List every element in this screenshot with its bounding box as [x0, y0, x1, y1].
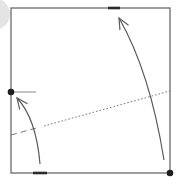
fold-lines [11, 91, 170, 135]
fold-arrows [17, 18, 164, 164]
left-edge-point [8, 89, 15, 96]
arrowhead-icon [119, 18, 129, 30]
origami-diagram: Origami fold diagram step [0, 0, 179, 184]
edge-marks [33, 8, 120, 173]
right-fold-arrow [119, 18, 164, 160]
paper-square [11, 8, 170, 173]
reference-points [8, 89, 174, 177]
left-fold-arrow [17, 98, 40, 164]
hidden-line-dotted [44, 91, 170, 126]
bottom-right-corner-point [167, 170, 174, 177]
corner-disc-decoration [0, 0, 10, 30]
diagram-canvas [0, 0, 179, 184]
